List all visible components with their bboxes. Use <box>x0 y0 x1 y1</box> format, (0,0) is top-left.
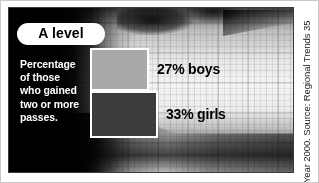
bar-label-boys: 27% boys <box>157 61 220 77</box>
bar-girls <box>90 91 158 138</box>
caption-line: two or more <box>20 98 94 111</box>
a-level-bar-chart-figure: A level Percentage of those who gained t… <box>0 0 319 183</box>
source-note: Year 2000. Source: Regional Trends 35 <box>296 0 317 183</box>
bar-label-girls: 33% girls <box>166 106 226 122</box>
caption-line: who gained <box>20 84 94 97</box>
caption-line: passes. <box>20 111 94 124</box>
caption-line: Percentage <box>20 58 94 71</box>
caption-line: of those <box>20 71 94 84</box>
chart-title-badge: A level <box>17 23 105 45</box>
bar-boys <box>90 48 149 91</box>
chart-caption: Percentage of those who gained two or mo… <box>20 58 94 124</box>
chart-panel: A level Percentage of those who gained t… <box>8 7 294 173</box>
